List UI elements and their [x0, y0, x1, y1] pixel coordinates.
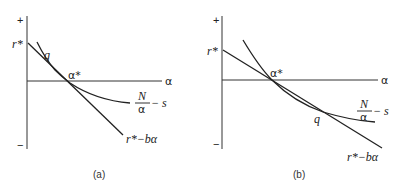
curve-denominator: α: [138, 103, 145, 116]
minus-sign: −: [213, 138, 219, 150]
alpha-star-label: α*: [68, 69, 81, 82]
curve-tail: − s: [151, 96, 167, 110]
line-r-star-minus-b-alpha: [28, 43, 123, 135]
curve-numerator: N: [137, 89, 147, 103]
line-label: r*−bα: [347, 150, 379, 164]
x-axis-label: α: [381, 74, 388, 87]
alpha-star-label: α*: [270, 67, 283, 80]
plus-sign: +: [213, 14, 219, 26]
curve-numerator: N: [359, 97, 369, 111]
r-star-label: r*: [12, 37, 23, 51]
line-label: r*−bα: [126, 132, 158, 146]
r-star-label: r*: [207, 44, 218, 58]
curve-tail: − s: [373, 104, 389, 118]
x-axis-label: α: [165, 75, 172, 88]
panel-a: + − α r* q α* N α − s r*−bα (a): [12, 14, 172, 180]
caption-a: (a): [93, 169, 105, 180]
minus-sign: −: [17, 139, 23, 151]
line-r-star-minus-b-alpha: [223, 50, 382, 148]
q-label: q: [44, 48, 50, 62]
q-label: q: [314, 112, 320, 126]
plus-sign: +: [17, 14, 23, 26]
curve-n-over-alpha-minus-s: [243, 40, 375, 122]
curve-denominator: α: [360, 111, 367, 124]
curve-n-over-alpha-minus-s: [37, 42, 130, 103]
caption-b: (b): [293, 169, 305, 180]
panel-b: + − α r* q α* N α − s r*−bα (b): [207, 14, 389, 180]
figure: + − α r* q α* N α − s r*−bα (a) + − α r*…: [0, 0, 400, 185]
